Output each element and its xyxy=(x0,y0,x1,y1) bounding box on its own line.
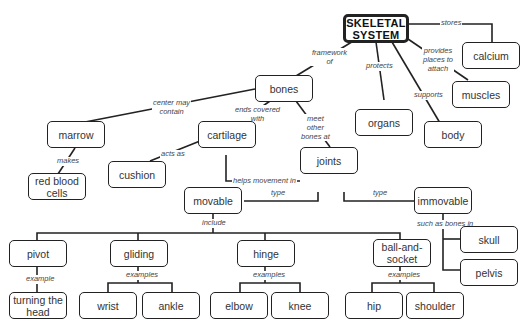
node-shoulder: shoulder xyxy=(406,292,464,319)
node-pelvis: pelvis xyxy=(460,259,518,286)
link-label-provides: providesplaces toattach xyxy=(422,46,454,73)
node-skeletal-system: SKELETALSYSTEM xyxy=(343,14,409,43)
node-elbow: elbow xyxy=(210,292,268,319)
link-label-include: include xyxy=(201,219,227,228)
node-immovable: immovable xyxy=(414,187,472,214)
node-cushion: cushion xyxy=(108,161,166,188)
node-skull: skull xyxy=(460,226,518,253)
node-movable: movable xyxy=(184,187,242,214)
link-label-type-immovable: type xyxy=(372,189,388,198)
link-label-examples-ball: examples xyxy=(387,271,421,280)
node-turning-the-head: turning thehead xyxy=(9,292,67,319)
node-body: body xyxy=(424,121,482,148)
node-calcium: calcium xyxy=(462,42,520,69)
link-label-examples-gliding: examples xyxy=(125,271,159,280)
link-label-stores: stores xyxy=(440,19,462,28)
node-ankle: ankle xyxy=(142,292,200,319)
link-label-protects: protects xyxy=(365,62,394,71)
link-label-meet: meetotherbones at xyxy=(300,114,331,141)
node-hinge: hinge xyxy=(237,240,295,267)
link-label-center: center maycontain xyxy=(152,98,191,116)
node-gliding: gliding xyxy=(110,240,168,267)
link-label-type-movable: type xyxy=(270,189,286,198)
node-cartilage: cartilage xyxy=(198,121,256,148)
node-wrist: wrist xyxy=(79,292,137,319)
node-ball-and-socket: ball-and-socket xyxy=(373,239,431,267)
node-muscles: muscles xyxy=(452,81,510,108)
link-label-makes: makes xyxy=(56,157,80,166)
node-knee: knee xyxy=(271,292,329,319)
node-pivot: pivot xyxy=(9,240,67,267)
link-label-examples-hinge: examples xyxy=(252,271,286,280)
link-label-example: example xyxy=(25,275,55,284)
link-label-acts: acts as xyxy=(160,150,186,159)
node-red-blood-cells: red blood cells xyxy=(28,173,86,200)
link-label-helps: helps movement in xyxy=(232,177,297,186)
node-hip: hip xyxy=(345,292,403,319)
node-organs: organs xyxy=(355,109,413,136)
node-marrow: marrow xyxy=(47,121,105,148)
node-joints: joints xyxy=(300,147,358,174)
node-bones: bones xyxy=(255,75,313,102)
link-label-supports: supports xyxy=(413,91,444,100)
link-label-framework: frameworkof xyxy=(311,48,348,66)
